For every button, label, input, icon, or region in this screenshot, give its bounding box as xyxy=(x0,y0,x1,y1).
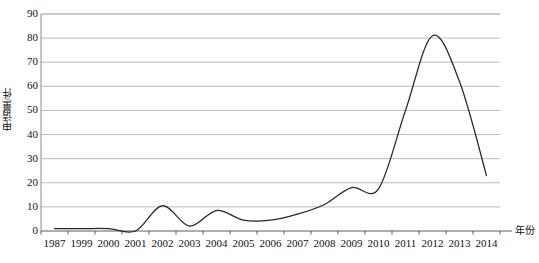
x-axis-tick-labels: 1987199920002001200220032004200520062007… xyxy=(0,0,539,263)
chart-figure: 申请量/件 0102030405060708090 19871999200020… xyxy=(0,0,539,263)
x-axis-title: 年份 xyxy=(515,225,535,236)
x-tick-label: 2014 xyxy=(467,237,507,249)
